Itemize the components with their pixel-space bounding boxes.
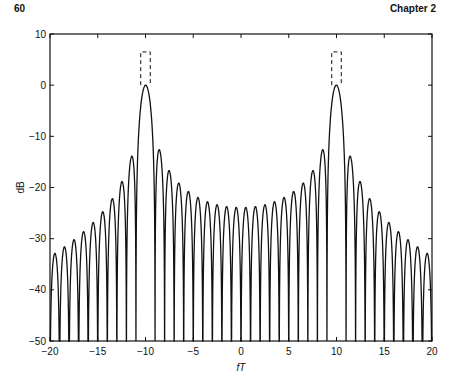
spectrum-chart: −20−15−10−505101520 100−10−20−30−40−50 f… (0, 0, 451, 390)
y-tick-label: −40 (29, 284, 46, 295)
y-tick-labels: 100−10−20−30−40−50 (29, 29, 46, 347)
dashed-rect-1 (332, 52, 342, 85)
dashed-rect-0 (141, 52, 151, 85)
x-tick-label: 5 (286, 346, 292, 357)
spectrum-curve (50, 85, 432, 341)
y-tick-label: −50 (29, 336, 46, 347)
spectrum-line (50, 85, 432, 341)
y-axis-label: dB (15, 181, 26, 194)
y-tick-label: 10 (35, 29, 47, 40)
x-axis-label: fT (237, 362, 247, 373)
y-tick-label: −10 (29, 131, 46, 142)
x-tick-label: −20 (42, 346, 59, 357)
x-tick-label: 10 (331, 346, 343, 357)
dashed-rectangles (141, 52, 342, 85)
y-tick-label: 0 (40, 80, 46, 91)
x-tick-labels: −20−15−10−505101520 (42, 346, 438, 357)
x-tick-label: −10 (137, 346, 154, 357)
y-tick-label: −20 (29, 182, 46, 193)
x-tick-label: 15 (379, 346, 391, 357)
y-tick-label: −30 (29, 233, 46, 244)
x-tick-label: 0 (238, 346, 244, 357)
x-tick-label: 20 (426, 346, 438, 357)
x-tick-label: −15 (89, 346, 106, 357)
x-tick-label: −5 (188, 346, 200, 357)
